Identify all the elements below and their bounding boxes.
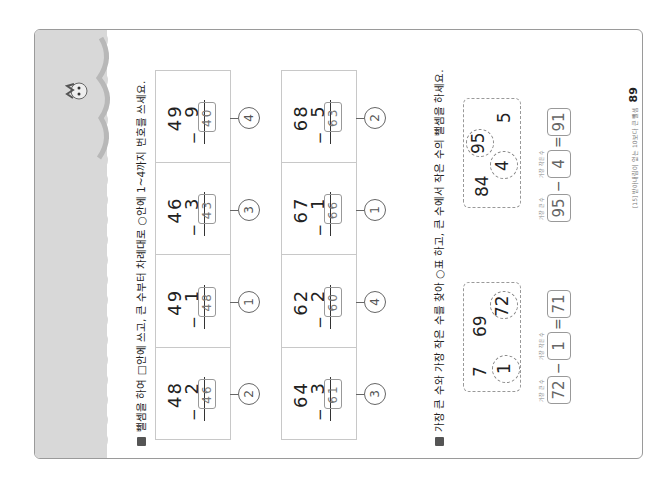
problem-cell: 671− 66 [282,162,356,254]
minus-sign: − [186,224,203,237]
page-number: 89 [627,87,640,102]
connector-line [356,118,364,119]
rank-circle[interactable]: 2 [238,383,260,405]
minus-sign: − [312,224,329,237]
problem-cell: 499− 40 [156,71,230,162]
connector-line [230,394,238,395]
largest-box[interactable]: 72 [547,376,571,404]
problem-cell: 482− 46 [156,347,230,439]
worksheet-page: 뺄셈을 하여 □안에 쓰고, 큰 수부터 차례대로 ○안에 1~4까지 번호를 … [34,29,643,459]
number[interactable]: 4 [492,160,512,171]
problem-cell: 463− 43 [156,162,230,254]
bullet-icon [435,437,444,446]
rank-circle[interactable]: 3 [238,199,260,221]
answer-box[interactable]: 61 [324,379,342,409]
problem-row-2: 643− 61 622− 60 671− 66 685− 63 [281,70,357,440]
answer-box[interactable]: 63 [324,102,342,132]
problem-cell: 622− 60 [282,255,356,347]
page-footer: [15] 받아내림이 없는 10보다 큰 뺄셈89 [627,87,640,208]
minus-sign: − [186,316,203,329]
minus-sign: − [550,362,566,374]
rank-circle[interactable]: 2 [364,107,386,129]
section1-instruction: 뺄셈을 하여 □안에 쓰고, 큰 수부터 차례대로 ○안에 1~4까지 번호를 … [133,81,148,446]
mascot-icon [65,76,91,106]
rank-circle[interactable]: 1 [364,199,386,221]
label-smallest: 가장 작은 수 [537,332,544,360]
rank-circle[interactable]: 4 [238,107,260,129]
largest-box[interactable]: 95 [547,194,571,222]
problem-cell: 643− 61 [282,347,356,439]
minus-sign: − [186,132,203,145]
number[interactable]: 69 [470,315,490,337]
problem-row-1: 482− 46 491− 48 463− 43 499− 40 [155,70,231,440]
rank-circle[interactable]: 4 [364,291,386,313]
rotated-page: 뺄셈을 하여 □안에 쓰고, 큰 수부터 차례대로 ○안에 1~4까지 번호를 … [0,0,670,489]
rank-circle[interactable]: 1 [238,291,260,313]
number[interactable]: 72 [492,295,512,317]
connector-line [356,394,364,395]
bullet-icon [137,437,146,446]
section2-instruction: 가장 큰 수와 가장 작은 수를 찾아 ○표 하고, 큰 수에서 작은 수의 뺄… [431,69,446,446]
equals-sign: = [550,318,566,330]
number-set-box: 84 95 4 5 [463,98,521,208]
minus-sign: − [312,408,329,421]
minus-sign: − [186,408,203,421]
connector-line [356,210,364,211]
wave-decoration [95,30,119,458]
label-smallest: 가장 작은 수 [537,150,544,178]
connector-line [356,302,364,303]
connector-line [230,302,238,303]
minus-sign: − [550,180,566,192]
number[interactable]: 1 [494,363,514,374]
equals-sign: = [550,136,566,148]
number[interactable]: 5 [494,112,514,123]
problem-cell: 685− 63 [282,71,356,162]
answer-box[interactable]: 40 [198,102,216,132]
answer-box[interactable]: 46 [198,379,216,409]
number[interactable]: 84 [472,175,492,197]
chapter-title: [15] 받아내림이 없는 10보다 큰 뺄셈 [631,107,638,209]
problem-cell: 491− 48 [156,255,230,347]
result-box[interactable]: 91 [547,108,571,136]
smallest-box[interactable]: 1 [547,332,571,360]
connector-line [230,210,238,211]
answer-box[interactable]: 43 [198,195,216,225]
number[interactable]: 7 [470,366,490,377]
label-largest: 가장 큰 수 [537,197,544,220]
number[interactable]: 95 [468,132,488,154]
smallest-box[interactable]: 4 [547,150,571,178]
minus-sign: − [312,132,329,145]
minus-sign: − [312,316,329,329]
rank-circle[interactable]: 3 [364,383,386,405]
answer-box[interactable]: 48 [198,287,216,317]
connector-line [230,118,238,119]
number-set-box: 7 69 1 72 [463,282,521,392]
answer-box[interactable]: 60 [324,287,342,317]
result-box[interactable]: 71 [547,290,571,318]
answer-box[interactable]: 66 [324,195,342,225]
label-largest: 가장 큰 수 [537,379,544,402]
